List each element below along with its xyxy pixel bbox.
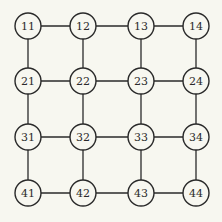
node-41: 41 bbox=[15, 180, 41, 206]
node-label: 43 bbox=[134, 187, 148, 200]
node-label: 41 bbox=[21, 187, 35, 200]
node-label: 22 bbox=[76, 75, 90, 88]
node-22: 22 bbox=[70, 68, 96, 94]
node-11: 11 bbox=[15, 13, 41, 39]
node-14: 14 bbox=[183, 13, 209, 39]
node-12: 12 bbox=[70, 13, 96, 39]
node-42: 42 bbox=[70, 180, 96, 206]
node-24: 24 bbox=[183, 68, 209, 94]
node-23: 23 bbox=[128, 68, 154, 94]
node-31: 31 bbox=[15, 124, 41, 150]
nodes-layer: 11121314212223243132333441424344 bbox=[15, 13, 209, 206]
node-label: 23 bbox=[134, 75, 148, 88]
node-44: 44 bbox=[183, 180, 209, 206]
node-label: 14 bbox=[189, 20, 203, 33]
node-label: 12 bbox=[76, 20, 90, 33]
node-32: 32 bbox=[70, 124, 96, 150]
node-43: 43 bbox=[128, 180, 154, 206]
node-label: 13 bbox=[134, 20, 148, 33]
edges-layer bbox=[28, 26, 196, 193]
node-label: 24 bbox=[189, 75, 203, 88]
node-13: 13 bbox=[128, 13, 154, 39]
node-label: 42 bbox=[76, 187, 90, 200]
node-label: 21 bbox=[21, 75, 35, 88]
node-label: 34 bbox=[189, 131, 203, 144]
node-label: 31 bbox=[21, 131, 35, 144]
node-label: 44 bbox=[189, 187, 203, 200]
node-label: 11 bbox=[21, 20, 35, 33]
node-21: 21 bbox=[15, 68, 41, 94]
node-label: 32 bbox=[76, 131, 90, 144]
node-33: 33 bbox=[128, 124, 154, 150]
node-34: 34 bbox=[183, 124, 209, 150]
grid-graph-diagram: 11121314212223243132333441424344 bbox=[0, 0, 222, 222]
node-label: 33 bbox=[134, 131, 148, 144]
